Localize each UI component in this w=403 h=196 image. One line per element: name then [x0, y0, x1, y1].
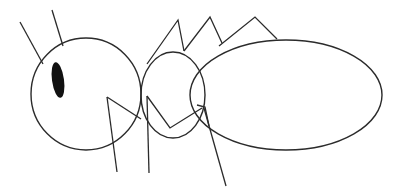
ant-illustration — [0, 0, 403, 196]
canvas-background — [0, 0, 403, 196]
ant-drawing-canvas — [0, 0, 403, 196]
